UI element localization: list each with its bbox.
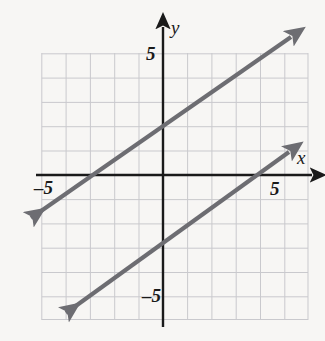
graph-canvas <box>0 0 325 341</box>
axes <box>36 27 312 327</box>
x-axis-tick-label-negative-5: –5 <box>34 178 53 197</box>
grid-lines <box>42 53 308 320</box>
line-upper <box>31 37 291 218</box>
x-axis-tick-label-positive-5: 5 <box>270 179 280 198</box>
x-axis-variable-label: x <box>297 148 305 167</box>
y-axis-tick-label-positive-5: 5 <box>146 44 156 63</box>
y-axis-variable-label: y <box>171 18 179 37</box>
y-axis-tick-label-negative-5: –5 <box>142 286 161 305</box>
coordinate-plane-figure: y x 5 5 –5 –5 <box>0 0 325 341</box>
